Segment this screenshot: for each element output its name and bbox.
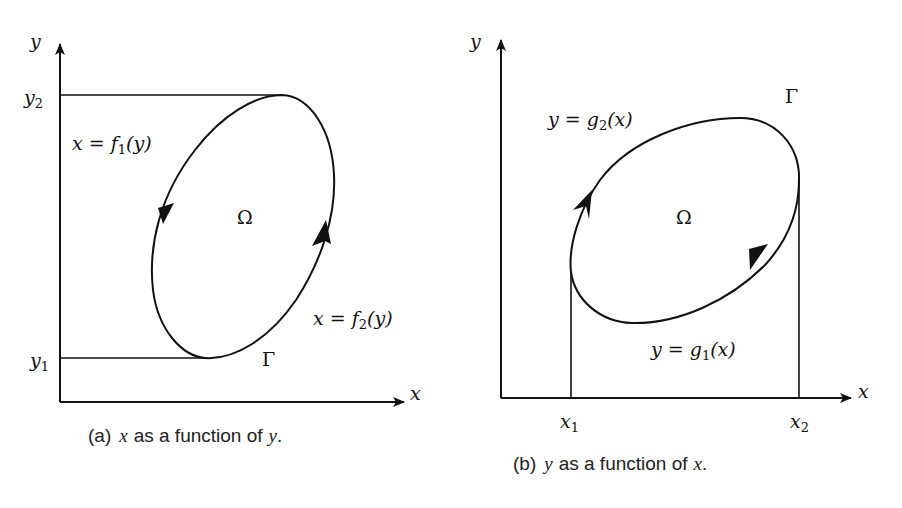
region-omega-label: Ω <box>237 206 253 228</box>
f2-label: x = f2(y) <box>313 307 393 332</box>
x-axis-label: x <box>410 382 421 404</box>
panel-b: y x x1 x2 y = g2(x) y = g1(x) Ω Γ (b)yas… <box>469 30 869 474</box>
y1-tick-label: y1 <box>29 349 49 374</box>
arrow-up-icon <box>573 190 592 219</box>
boundary-gamma-label: Γ <box>785 85 798 107</box>
panel-b-caption: (b)yas a function ofx. <box>513 453 707 474</box>
y-axis-label: y <box>469 30 481 52</box>
arrow-down-icon <box>158 203 174 224</box>
y-axis-label: y <box>29 30 41 52</box>
region-omega-label: Ω <box>676 206 692 228</box>
arrow-up-icon <box>312 220 331 246</box>
boundary-gamma-label: Γ <box>262 348 275 370</box>
x1-tick-label: x1 <box>560 410 579 435</box>
g1-label: y = g1(x) <box>650 338 736 363</box>
panel-a-caption: (a)xas a function ofy. <box>88 425 282 446</box>
panel-a: y x y2 y1 x = f1(y) x = f2(y) Ω Γ (a)xas… <box>23 30 421 446</box>
x-axis-label: x <box>858 380 869 402</box>
y2-tick-label: y2 <box>23 86 43 111</box>
g2-label: y = g2(x) <box>547 108 633 133</box>
x2-tick-label: x2 <box>790 410 809 435</box>
f1-label: x = f1(y) <box>72 132 152 157</box>
